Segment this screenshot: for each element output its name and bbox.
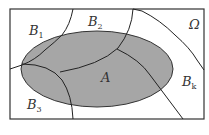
label-a: A bbox=[100, 70, 110, 85]
label-omega: Ω bbox=[188, 17, 200, 32]
event-a-ellipse bbox=[21, 31, 173, 107]
partition-diagram: B1 B2 B3 Bk A Ω bbox=[0, 0, 209, 135]
